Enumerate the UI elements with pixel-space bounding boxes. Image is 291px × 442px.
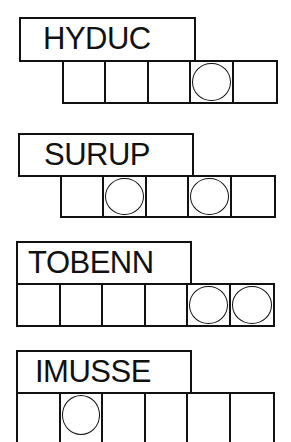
answer-cell-2[interactable] (61, 285, 104, 325)
answer-cell-3[interactable] (103, 394, 146, 442)
circle-marker (192, 63, 230, 101)
answer-cells (60, 175, 276, 218)
answer-cell-2-circled[interactable] (61, 394, 104, 442)
answer-cell-3[interactable] (147, 177, 189, 216)
scrambled-word: HYDUC (19, 17, 196, 62)
answer-cell-2-circled[interactable] (104, 177, 146, 216)
answer-cell-6[interactable] (231, 394, 273, 442)
answer-cell-1[interactable] (18, 285, 61, 325)
answer-cell-5[interactable] (188, 394, 231, 442)
scrambled-word: TOBENN (16, 241, 192, 285)
answer-cell-4[interactable] (146, 394, 189, 442)
answer-cell-5[interactable] (234, 62, 276, 102)
answer-cell-3[interactable] (103, 285, 146, 325)
answer-cell-1[interactable] (18, 394, 61, 442)
circle-marker (232, 286, 272, 324)
scrambled-word: IMUSSE (16, 350, 192, 394)
answer-cell-5[interactable] (232, 177, 274, 216)
circle-marker (190, 178, 228, 215)
circle-marker (105, 178, 143, 215)
answer-cell-6-circled[interactable] (231, 285, 273, 325)
circle-marker (62, 395, 101, 435)
answer-cells (16, 392, 275, 442)
answer-cell-1[interactable] (64, 62, 106, 102)
answer-cells (16, 283, 275, 327)
answer-cell-3[interactable] (149, 62, 191, 102)
answer-cell-4-circled[interactable] (191, 62, 233, 102)
answer-cell-4-circled[interactable] (189, 177, 231, 216)
answer-cells (62, 60, 278, 104)
circle-marker (189, 286, 228, 324)
answer-cell-1[interactable] (62, 177, 104, 216)
answer-cell-4[interactable] (146, 285, 189, 325)
answer-cell-5-circled[interactable] (188, 285, 231, 325)
answer-cell-2[interactable] (106, 62, 148, 102)
scrambled-word: SURUP (18, 133, 194, 177)
